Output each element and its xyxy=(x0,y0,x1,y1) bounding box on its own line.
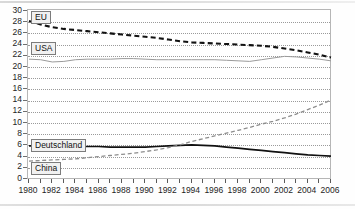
y-tick-label: 12 xyxy=(0,106,22,115)
series-line-eu xyxy=(29,21,331,57)
y-tick-label: 2 xyxy=(0,162,22,171)
y-tick-label: 6 xyxy=(0,140,22,149)
x-tick-label: 1986 xyxy=(88,186,107,195)
y-tick-label: 22 xyxy=(0,50,22,59)
plot-area xyxy=(27,9,331,179)
x-tick-label: 1994 xyxy=(181,186,200,195)
page-rule-top xyxy=(0,1,355,3)
x-tick-label: 1980 xyxy=(19,186,38,195)
y-tick-label: 18 xyxy=(0,73,22,82)
x-tick-label: 1998 xyxy=(228,186,247,195)
callout-usa: USA xyxy=(31,42,56,55)
x-tick-label: 1990 xyxy=(135,186,154,195)
callout-deutschland: Deutschland xyxy=(31,139,86,152)
x-tick-label: 1984 xyxy=(65,186,84,195)
chart-figure: 024681012141618202224262830 198019821984… xyxy=(0,0,355,209)
y-tick-label: 28 xyxy=(0,17,22,26)
page-rule-bottom xyxy=(0,204,355,206)
x-tick-label: 1988 xyxy=(111,186,130,195)
x-tick-label: 2004 xyxy=(297,186,316,195)
series-line-usa xyxy=(29,56,331,62)
y-tick-label: 0 xyxy=(0,174,22,183)
x-tick-label: 1982 xyxy=(42,186,61,195)
series-lines xyxy=(28,10,332,180)
callout-china: China xyxy=(31,162,61,175)
y-tick-label: 20 xyxy=(0,62,22,71)
y-tick-label: 8 xyxy=(0,129,22,138)
x-tick-label: 1996 xyxy=(204,186,223,195)
y-tick-label: 26 xyxy=(0,28,22,37)
y-tick-label: 24 xyxy=(0,39,22,48)
x-tick-label: 1992 xyxy=(158,186,177,195)
callout-eu: EU xyxy=(31,11,51,24)
x-tick-label: 2006 xyxy=(321,186,340,195)
y-tick-label: 14 xyxy=(0,95,22,104)
y-tick-label: 4 xyxy=(0,151,22,160)
x-tick-label: 2000 xyxy=(251,186,270,195)
y-tick-label: 10 xyxy=(0,118,22,127)
y-tick-label: 30 xyxy=(0,6,22,15)
x-tick-label: 2002 xyxy=(274,186,293,195)
y-tick-label: 16 xyxy=(0,84,22,93)
